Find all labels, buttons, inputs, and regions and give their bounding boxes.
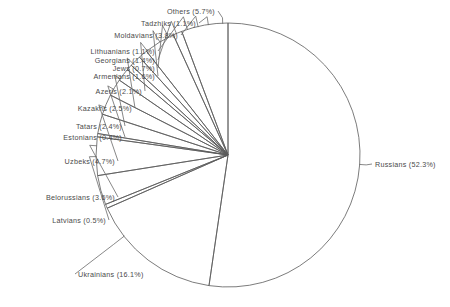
pie-slice-label: Belorussians (3.6%)	[46, 193, 115, 202]
pie-slice-label: Others (5.7%)	[167, 7, 215, 16]
pie-slice-label: Lithuanians (1.1%)	[91, 47, 155, 56]
pie-slice-label: Latvians (0.5%)	[52, 216, 106, 225]
pie-slice-label: Uzbeks (4.7%)	[65, 157, 115, 166]
pie-slice-label: Kazakhs (2.5%)	[78, 104, 132, 113]
pie-slice-label: Armenians (1.6%)	[93, 72, 155, 81]
pie-slice-label: Azeris (2.1%)	[96, 87, 142, 96]
pie-chart-figure: Others (5.7%)Tadzhiks (1.1%)Moldavians (…	[0, 0, 450, 307]
pie-slice-label: Ukrainians (16.1%)	[78, 270, 144, 279]
pie-slice-label: Estonians (0.4%)	[63, 133, 122, 142]
pie-labels-layer: Others (5.7%)Tadzhiks (1.1%)Moldavians (…	[0, 0, 450, 307]
pie-slice-label: Tatars (2.4%)	[76, 122, 122, 131]
pie-slice-label: Tadzhiks (1.1%)	[141, 19, 196, 28]
pie-slice-label: Moldavians (3.8%)	[114, 31, 178, 40]
pie-slice-label: Russians (52.3%)	[375, 160, 436, 169]
